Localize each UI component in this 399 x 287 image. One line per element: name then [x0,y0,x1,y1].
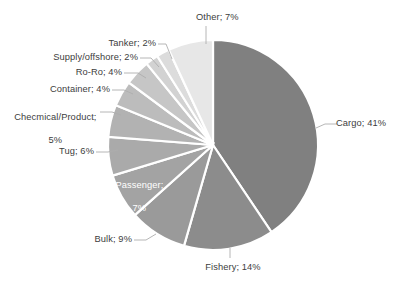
pie-label-container: Container; 4% [28,84,110,96]
pie-label-other: Other; 7% [196,12,239,24]
pie-label-chemical-line2: 5% [49,135,63,145]
pie-label-supply: Supply/offshore; 2% [24,52,138,64]
pie-label-fishery: Fishery; 14% [188,262,278,274]
pie-label-passenger-line1: Passenger; [115,180,163,190]
leader-line-cargo [316,124,337,128]
pie-chart: Cargo; 41% Fishery; 14% Bulk; 9% Tug; 6%… [0,0,399,287]
pie-label-cargo: Cargo; 41% [336,118,386,130]
pie-label-roro: Ro-Ro; 4% [44,67,122,79]
leader-line-bulk [134,234,156,240]
pie-label-tanker: Tanker; 2% [70,38,156,50]
pie-label-passenger-line2: 7% [133,203,147,213]
pie-label-bulk: Bulk; 9% [54,234,132,246]
pie-label-chemical-line1: Checmical/Product; [14,112,96,122]
